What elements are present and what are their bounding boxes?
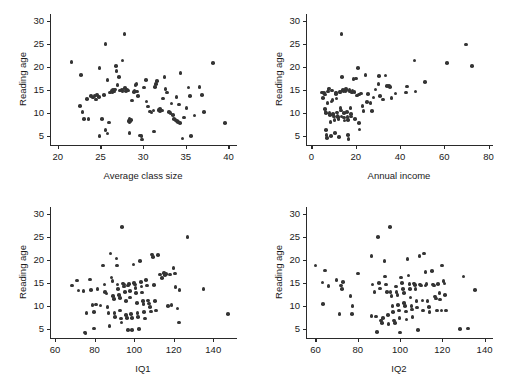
data-point xyxy=(77,289,81,293)
data-point xyxy=(404,310,408,314)
data-point xyxy=(337,135,341,139)
data-point xyxy=(405,318,409,322)
data-point xyxy=(119,317,123,321)
data-point xyxy=(185,106,189,110)
data-point xyxy=(464,43,468,47)
data-point xyxy=(87,117,91,121)
data-point xyxy=(128,131,132,135)
data-point xyxy=(338,312,342,316)
data-point xyxy=(388,85,392,89)
data-point xyxy=(421,309,425,313)
data-point xyxy=(414,287,418,291)
panel-4-y-tick xyxy=(303,283,307,284)
data-point xyxy=(126,89,130,93)
data-point xyxy=(177,321,181,325)
data-point xyxy=(321,302,325,306)
panel-3-x-tick-label: 60 xyxy=(50,345,61,355)
data-point xyxy=(413,283,417,287)
data-point xyxy=(161,97,165,101)
data-point xyxy=(329,134,333,138)
data-point xyxy=(113,88,117,92)
data-point xyxy=(350,312,354,316)
data-point xyxy=(413,59,417,63)
data-point xyxy=(388,225,392,229)
data-point xyxy=(128,289,132,293)
data-point xyxy=(346,133,350,137)
panel-1-y-tick-label: 30 xyxy=(33,16,44,26)
data-point xyxy=(78,104,82,108)
panel-2-x-tick-label: 80 xyxy=(483,152,494,162)
panel-2-y-axis-title: Reading age xyxy=(274,34,284,124)
data-point xyxy=(135,82,139,86)
data-point xyxy=(200,93,204,97)
panel-1-y-axis-title: Reading age xyxy=(18,34,28,124)
panel-2-y-tick xyxy=(303,90,307,91)
data-point xyxy=(466,327,470,331)
panel-1-x-tick xyxy=(100,145,101,149)
panel-2-plot-area: 51015202530020406080 xyxy=(307,14,493,145)
data-point xyxy=(82,117,86,121)
data-point xyxy=(376,235,380,239)
data-point xyxy=(327,284,331,288)
panel-2-y-tick-label: 10 xyxy=(289,108,300,118)
data-point xyxy=(117,75,121,79)
data-point xyxy=(96,287,100,291)
panel-1-y-tick xyxy=(47,113,51,114)
data-point xyxy=(98,134,102,138)
data-point xyxy=(347,137,351,141)
data-point xyxy=(115,264,119,268)
data-point xyxy=(416,328,420,332)
panel-4-x-tick xyxy=(400,338,401,342)
data-point xyxy=(409,296,413,300)
panel-2-y-tick-label: 25 xyxy=(289,39,300,49)
panel-1-x-axis-title: Average class size xyxy=(50,171,236,181)
data-point xyxy=(391,310,395,314)
data-point xyxy=(314,264,318,268)
data-point xyxy=(75,279,79,283)
data-point xyxy=(120,225,124,229)
panel-3-y-tick-label: 30 xyxy=(33,209,44,219)
data-point xyxy=(88,278,92,282)
panel-2-x-tick xyxy=(356,145,357,149)
panel-1-x-tick xyxy=(58,145,59,149)
data-point xyxy=(321,281,325,285)
panel-1-y-tick xyxy=(47,136,51,137)
panel-3-y-tick xyxy=(47,237,51,238)
data-point xyxy=(116,287,120,291)
panel-iq1: 510152025306080100120140 IQ1 Reading age xyxy=(0,193,256,386)
data-point xyxy=(428,310,432,314)
data-point xyxy=(189,134,193,138)
data-point xyxy=(129,118,133,122)
data-point xyxy=(84,331,88,335)
data-point xyxy=(377,74,381,78)
panel-2-y-tick xyxy=(303,44,307,45)
data-point xyxy=(390,294,394,298)
data-point xyxy=(440,264,444,268)
data-point xyxy=(436,282,440,286)
data-point xyxy=(145,284,149,288)
data-point xyxy=(124,299,128,303)
data-point xyxy=(373,290,377,294)
data-point xyxy=(341,280,345,284)
data-point xyxy=(92,310,96,314)
data-point xyxy=(178,288,182,292)
data-point xyxy=(323,269,327,273)
panel-2-y-tick xyxy=(303,21,307,22)
data-point xyxy=(123,290,127,294)
data-point xyxy=(140,291,144,295)
data-point xyxy=(166,304,170,308)
data-point xyxy=(123,32,127,36)
panel-3-y-tick xyxy=(47,260,51,261)
data-point xyxy=(85,311,89,315)
data-point xyxy=(398,316,402,320)
data-point xyxy=(226,312,230,316)
data-point xyxy=(187,86,191,90)
data-point xyxy=(335,97,339,101)
data-point xyxy=(398,331,402,335)
data-point xyxy=(149,310,153,314)
panel-iq2: 510152025306080100120140 IQ2 Reading age xyxy=(256,193,512,386)
data-point xyxy=(470,64,474,68)
data-point xyxy=(178,121,182,125)
data-point xyxy=(144,278,148,282)
data-point xyxy=(85,97,89,101)
